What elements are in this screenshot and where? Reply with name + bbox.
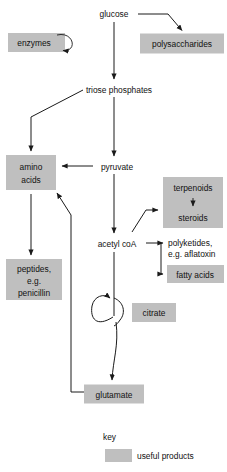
edge-acetyl-coa-to-terpenoids (132, 210, 158, 232)
node-label-enzymes: enzymes (17, 38, 51, 48)
node-label-glucose: glucose (100, 9, 129, 19)
node-label-peptides-line1: peptides, (17, 264, 51, 274)
node-label-peptides-line3: penicillin (18, 288, 50, 298)
node-label-triose-phosphates: triose phosphates (86, 85, 152, 95)
edge-tca-cycle-to-citrate (114, 298, 123, 326)
edge-acetyl-coa-branch-trunk (146, 243, 162, 274)
node-label-fatty-acids: fatty acids (176, 270, 214, 280)
key-swatch-label: useful products (137, 451, 194, 461)
edge-tca-cycle-to-glutamate (112, 322, 117, 380)
node-label-amino-acids-line2: acids (21, 175, 41, 185)
node-label-polyketides-line1: polyketides, (168, 238, 212, 248)
node-label-citrate: citrate (143, 308, 166, 318)
node-label-peptides-line2: e.g. (27, 276, 41, 286)
node-label-steroids: steroids (178, 213, 207, 223)
node-label-acetyl-coa: acetyl coA (98, 239, 137, 249)
node-label-terpenoids: terpenoids (173, 183, 212, 193)
key-swatch (105, 449, 132, 462)
node-label-polyketides-line2: e.g. aflatoxin (168, 249, 216, 259)
node-label-pyruvate: pyruvate (101, 162, 133, 172)
edge-triose-phosphates-to-amino-acids (31, 90, 83, 151)
edge-glucose-to-polysaccharides (138, 14, 182, 31)
node-label-amino-acids-line1: amino (20, 162, 43, 172)
diagram-canvas: glucose polysaccharides enzymes triose p… (0, 0, 227, 472)
metabolic-pathway-diagram: glucose polysaccharides enzymes triose p… (0, 0, 227, 472)
node-label-glutamate: glutamate (96, 390, 133, 400)
tca-cycle-arc (92, 296, 113, 322)
node-label-polysaccharides: polysaccharides (152, 39, 212, 49)
key-title: key (103, 432, 117, 442)
